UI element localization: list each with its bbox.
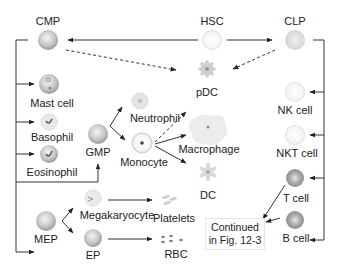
label-clp: CLP (284, 15, 305, 27)
label-rbc: RBC (164, 248, 187, 260)
cell-hsc (202, 30, 222, 50)
label-monocyte: Monocyte (120, 156, 168, 168)
label-platelets: Platelets (153, 212, 196, 224)
edge-bcell-note (266, 218, 280, 222)
cell-mast (39, 74, 59, 94)
edge-cmp-pdc (66, 50, 176, 70)
label-megakaryocyte: Megakaryocyte (80, 209, 155, 221)
edge-clp-bracket (313, 40, 324, 240)
edge-cmp-bracket (16, 40, 28, 252)
cell-cmp (38, 30, 58, 50)
edge-mep-megakaryocyte (62, 208, 73, 221)
cell-gmp (88, 124, 108, 144)
label-ep: EP (86, 249, 101, 261)
label-cmp: CMP (36, 15, 60, 27)
edge-clp-pdc (233, 50, 275, 69)
edge-tcell-note (263, 185, 285, 219)
edge-mep-ep (62, 221, 73, 233)
label-dc: DC (200, 189, 216, 201)
label-hsc: HSC (200, 15, 223, 27)
label-eosinophil: Eosinophil (27, 166, 78, 178)
cell-dc (198, 162, 218, 182)
cell-nk (285, 82, 305, 102)
label-mast: Mast cell (30, 97, 73, 109)
label-basophil: Basophil (31, 131, 73, 143)
label-nk: NK cell (278, 104, 313, 116)
cell-ep (84, 229, 102, 247)
continued-note-line2: in Fig. 12-3 (206, 234, 264, 247)
cell-b (286, 211, 304, 229)
cell-megakaryocyte (85, 190, 101, 206)
continued-note-line1: Continued (206, 221, 264, 234)
lineage-diagram: CMP HSC CLP pDC Mast cell Basophil Eosin… (0, 0, 341, 271)
label-pdc: pDC (196, 86, 218, 98)
cell-eosinophil (40, 145, 58, 163)
label-neutrophil: Neutrophil (130, 112, 180, 124)
edge-gmp-monocyte (110, 126, 125, 140)
label-b: B cell (283, 232, 310, 244)
cell-macrophage (189, 115, 227, 146)
label-gmp: GMP (85, 146, 110, 158)
cell-basophil (41, 114, 57, 130)
cell-neutrophil (132, 93, 148, 109)
continued-note: Continued in Fig. 12-3 (205, 218, 265, 250)
cell-monocyte (132, 133, 152, 153)
label-mep: MEP (34, 233, 58, 245)
cell-rbc (161, 235, 183, 243)
cell-nkt (285, 125, 305, 145)
label-t: T cell (283, 192, 309, 204)
cell-t (286, 169, 304, 187)
edge-gmp-neutrophil (110, 107, 122, 126)
label-nkt: NKT cell (276, 147, 317, 159)
label-macrophage: Macrophage (178, 143, 239, 155)
cell-mep (36, 211, 56, 231)
cell-platelets (162, 194, 178, 206)
cell-pdc (198, 60, 216, 78)
cell-clp (285, 30, 305, 50)
